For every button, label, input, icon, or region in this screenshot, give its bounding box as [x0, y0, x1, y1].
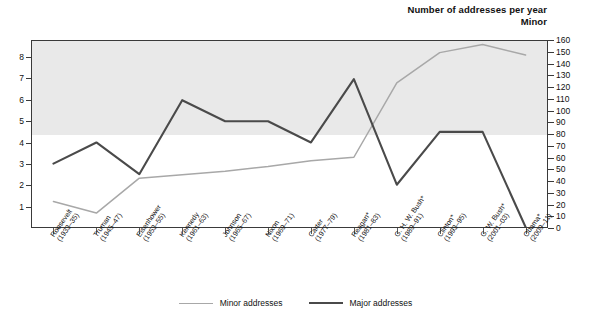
y-axis-right-tick-label: 70 [556, 142, 565, 151]
y-axis-left: 12345678 [8, 40, 31, 228]
plot-area [31, 40, 548, 228]
y-axis-right-tick-label: 50 [556, 165, 565, 174]
legend-swatch-minor-icon [179, 303, 213, 304]
y-axis-right-tick [548, 193, 554, 194]
y-axis-right-tick [548, 134, 554, 135]
y-axis-right-tick-label: 140 [556, 59, 570, 68]
y-axis-right-tick-label: 10 [556, 212, 565, 221]
y-axis-right-tick [548, 52, 554, 53]
y-axis-right-tick-label: 100 [556, 106, 570, 115]
y-axis-left-tick [26, 57, 31, 58]
y-axis-left-tick-label: 1 [19, 202, 24, 211]
y-axis-right-tick-label: 80 [556, 130, 565, 139]
y-axis-right-tick-label: 40 [556, 177, 565, 186]
y-axis-right-tick-label: 90 [556, 118, 565, 127]
y-axis-right-tick [548, 40, 554, 41]
y-axis-left-tick-label: 8 [19, 53, 24, 62]
y-axis-left-tick [26, 185, 31, 186]
y-axis-right-tick-label: 20 [556, 200, 565, 209]
y-axis-right-tick [548, 169, 554, 170]
y-axis-left-tick-label: 2 [19, 181, 24, 190]
y-axis-right-tick [548, 122, 554, 123]
y-axis-right-tick [548, 158, 554, 159]
y-axis-right-tick-label: 150 [556, 48, 570, 57]
y-axis-left-tick [26, 207, 31, 208]
y-axis-right-tick [548, 64, 554, 65]
y-axis-right-tick [548, 228, 554, 229]
y-axis-right-tick-label: 60 [556, 153, 565, 162]
y-axis-right-tick-label: 0 [556, 224, 561, 233]
y-axis-left-tick [26, 100, 31, 101]
y-axis-left-tick-label: 7 [19, 74, 24, 83]
legend-swatch-major-icon [309, 302, 343, 304]
y-axis-left-tick [26, 121, 31, 122]
legend-item-minor[interactable]: Minor addresses [179, 298, 283, 308]
legend-label-minor: Minor addresses [220, 298, 283, 308]
y-axis-right-tick [548, 146, 554, 147]
y-axis-right-tick-label: 30 [556, 189, 565, 198]
y-axis-left-tick-label: 4 [19, 138, 24, 147]
x-axis-labels: Roosevelt(1933–35)Truman(1945–47)Eisenho… [0, 234, 591, 292]
y-axis-right-tick [548, 111, 554, 112]
y-axis-right-tick-label: 120 [556, 83, 570, 92]
y-axis-right: 0102030405060708090100110120130140150160 [548, 40, 591, 228]
y-axis-left-tick [26, 164, 31, 165]
chart-legend: Minor addresses Major addresses [0, 298, 591, 308]
legend-label-major: Major addresses [350, 298, 413, 308]
y-axis-right-tick-label: 130 [556, 71, 570, 80]
y-axis-right-tick [548, 181, 554, 182]
y-axis-right-tick-label: 110 [556, 95, 570, 104]
series-lines [32, 41, 547, 227]
y-axis-left-tick-label: 6 [19, 96, 24, 105]
y-axis-right-tick [548, 87, 554, 88]
y-axis-right-tick [548, 99, 554, 100]
y-axis-left-tick-label: 3 [19, 160, 24, 169]
series-line-major [53, 79, 525, 227]
y-axis-left-tick [26, 78, 31, 79]
chart-title-right: Number of addresses per year Minor [407, 4, 547, 28]
legend-item-major[interactable]: Major addresses [309, 298, 413, 308]
y-axis-left-tick [26, 143, 31, 144]
y-axis-left-tick-label: 5 [19, 117, 24, 126]
y-axis-right-tick [548, 205, 554, 206]
chart-container: Number of addresses per year Minor Numbe… [0, 0, 591, 318]
chart-title-right-line2: Minor [407, 16, 547, 28]
chart-title-right-line1: Number of addresses per year [407, 4, 547, 16]
y-axis-right-tick-label: 160 [556, 36, 570, 45]
y-axis-right-tick [548, 75, 554, 76]
series-line-minor [53, 44, 525, 213]
